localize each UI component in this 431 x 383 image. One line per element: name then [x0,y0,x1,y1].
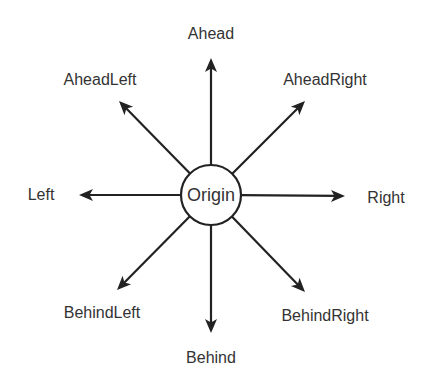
label-ahead-left: AheadLeft [64,71,137,89]
arrow-right [241,195,339,196]
arrow-behind-left [121,216,190,285]
label-left: Left [28,186,55,204]
label-behind: Behind [186,349,236,367]
origin-label: Origin [187,185,235,205]
label-ahead: Ahead [188,25,234,43]
arrow-ahead-left [123,105,190,173]
label-behind-left: BehindLeft [64,304,141,322]
arrow-ahead-right [232,105,301,174]
label-behind-right: BehindRight [281,307,368,325]
label-ahead-right: AheadRight [283,71,367,89]
arrow-behind-right [232,217,301,288]
label-right: Right [367,189,404,207]
